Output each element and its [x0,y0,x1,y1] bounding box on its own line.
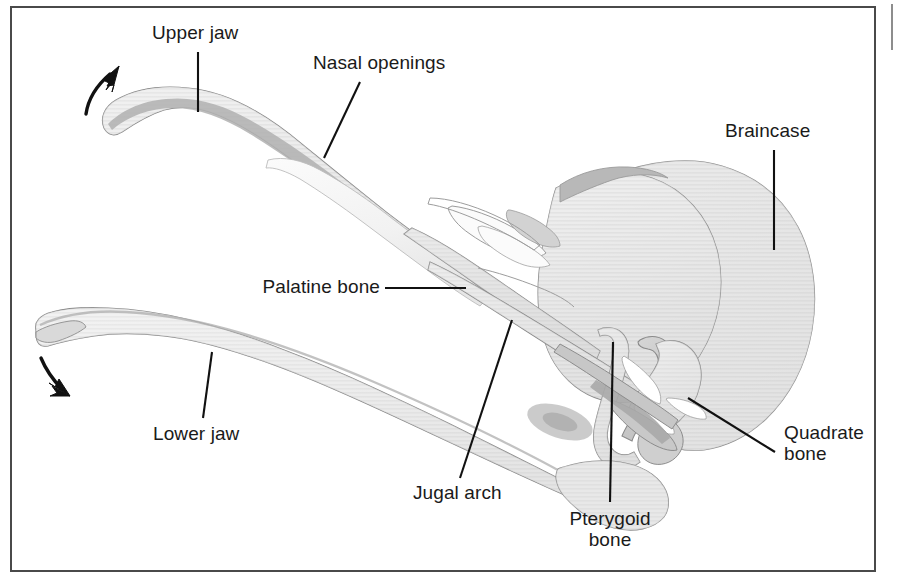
page-gutter [889,0,901,577]
label-braincase: Braincase [725,120,810,141]
label-jugal-arch: Jugal arch [413,482,502,503]
page-gutter-rule [891,4,893,50]
leader-nasal-openings [324,82,360,158]
label-palatine-bone: Palatine bone [148,276,380,297]
lower-jaw-bone [36,308,582,500]
label-nasal-openings: Nasal openings [313,52,445,73]
label-quadrate-bone: Quadrate bone [784,422,864,465]
label-lower-jaw: Lower jaw [153,423,239,444]
leader-lower-jaw [203,352,212,418]
lower-jaw-motion-arrow [41,358,70,396]
label-pterygoid-bone: Pterygoid bone [535,508,685,551]
figure-root: Upper jaw Nasal openings Braincase Palat… [0,0,901,577]
label-upper-jaw: Upper jaw [152,22,238,43]
